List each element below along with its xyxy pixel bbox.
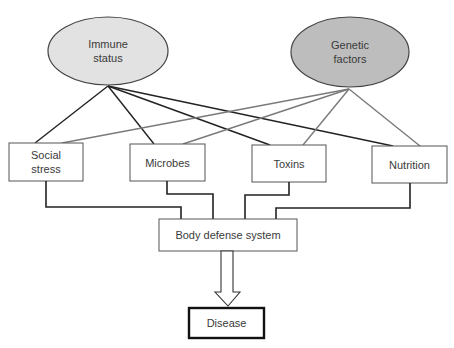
connector-nutrition <box>276 183 410 219</box>
edge-immune-to-social-stress <box>35 86 108 143</box>
connector-microbes <box>167 181 213 219</box>
disease-label: Disease <box>189 308 264 338</box>
body-defense-system-label: Body defense system <box>159 219 297 251</box>
edge-genetic-to-toxins <box>303 89 349 145</box>
nutrition-label: Nutrition <box>372 146 447 183</box>
edge-genetic-to-social-stress <box>62 89 349 143</box>
edge-genetic-to-nutrition <box>349 89 420 146</box>
edge-genetic-to-microbes <box>183 89 349 144</box>
toxins-label: Toxins <box>252 145 326 182</box>
connector-social-stress <box>46 181 181 219</box>
immune-edges <box>35 86 393 146</box>
immune-status-label: Immune status <box>48 17 168 85</box>
diagram-canvas: Immune status Genetic factors Social str… <box>0 0 454 348</box>
microbes-label: Microbes <box>130 144 205 181</box>
edge-immune-to-nutrition <box>108 86 393 146</box>
arrow-group <box>215 251 240 306</box>
social-stress-label: Social stress <box>9 143 83 181</box>
down-arrow-icon <box>215 251 240 306</box>
connector-toxins <box>245 182 289 219</box>
genetic-factors-label: Genetic factors <box>291 17 409 87</box>
genetic-edges <box>62 89 420 146</box>
connector-lines <box>46 181 410 219</box>
